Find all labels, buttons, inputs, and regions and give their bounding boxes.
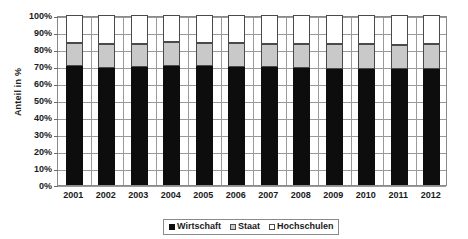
legend-label: Staat — [238, 221, 260, 232]
bar-segment-wirtschaft[interactable] — [358, 69, 375, 185]
y-axis-tickmark — [54, 17, 58, 18]
bar-group[interactable] — [293, 17, 310, 185]
y-axis-tick-labels: 100%90%80%70%60%50%40%30%20%10%0% — [14, 16, 52, 186]
horizontal-gridline — [58, 17, 446, 18]
y-axis-tickmark — [54, 153, 58, 154]
vertical-gridline — [123, 17, 124, 185]
bar-segment-staat[interactable] — [66, 43, 83, 67]
bar-segment-hochschulen[interactable] — [98, 15, 115, 44]
bar-segment-staat[interactable] — [423, 44, 440, 68]
bar-segment-hochschulen[interactable] — [261, 15, 278, 44]
y-axis-tickmark — [54, 186, 58, 187]
bar-group[interactable] — [261, 17, 278, 185]
bar-group[interactable] — [163, 17, 180, 185]
x-axis-tick-label: 2011 — [382, 190, 415, 200]
bar-group[interactable] — [66, 17, 83, 185]
vertical-gridline — [188, 17, 189, 185]
vertical-gridline — [221, 17, 222, 185]
y-axis-tickmark — [54, 68, 58, 69]
legend-swatch-icon — [269, 224, 275, 230]
x-axis-tick-label: 2004 — [155, 190, 188, 200]
bar-segment-hochschulen[interactable] — [228, 15, 245, 43]
bar-segment-staat[interactable] — [326, 44, 343, 69]
y-axis-tickmark — [54, 51, 58, 52]
x-axis-tick-label: 2007 — [252, 190, 285, 200]
y-axis-tick-label: 30% — [14, 131, 52, 140]
horizontal-gridline — [58, 170, 446, 171]
bar-segment-staat[interactable] — [391, 45, 408, 69]
y-axis-tick-label: 90% — [14, 29, 52, 38]
bar-segment-hochschulen[interactable] — [163, 15, 180, 42]
bar-segment-staat[interactable] — [261, 44, 278, 67]
y-axis-tick-label: 100% — [14, 12, 52, 21]
legend-swatch-icon — [230, 224, 236, 230]
bar-segment-hochschulen[interactable] — [196, 15, 213, 43]
legend-item[interactable]: Hochschulen — [269, 221, 334, 232]
bar-group[interactable] — [228, 17, 245, 185]
bar-segment-hochschulen[interactable] — [423, 15, 440, 44]
vertical-gridline — [351, 17, 352, 185]
bar-segment-staat[interactable] — [228, 43, 245, 67]
bar-segment-wirtschaft[interactable] — [131, 67, 148, 185]
bar-group[interactable] — [326, 17, 343, 185]
bar-segment-wirtschaft[interactable] — [66, 66, 83, 185]
vertical-gridline — [156, 17, 157, 185]
horizontal-gridline — [58, 68, 446, 69]
bar-segment-staat[interactable] — [163, 42, 180, 66]
bar-segment-staat[interactable] — [98, 44, 115, 68]
bar-segment-hochschulen[interactable] — [131, 15, 148, 44]
bar-group[interactable] — [423, 17, 440, 185]
legend-swatch-icon — [169, 224, 175, 230]
bar-group[interactable] — [358, 17, 375, 185]
y-axis-tickmark — [54, 136, 58, 137]
y-axis-tick-label: 60% — [14, 80, 52, 89]
bar-segment-wirtschaft[interactable] — [98, 68, 115, 185]
chart-legend: WirtschaftStaatHochschulen — [163, 219, 339, 235]
y-axis-tick-label: 70% — [14, 63, 52, 72]
y-axis-tickmark — [54, 34, 58, 35]
horizontal-gridline — [58, 186, 446, 187]
vertical-gridline — [286, 17, 287, 185]
y-axis-tickmark — [54, 170, 58, 171]
y-axis-tick-label: 0% — [14, 182, 52, 191]
vertical-gridline — [253, 17, 254, 185]
bar-group[interactable] — [98, 17, 115, 185]
x-axis-tick-label: 2006 — [220, 190, 253, 200]
vertical-gridline — [416, 17, 417, 185]
bar-segment-wirtschaft[interactable] — [163, 66, 180, 185]
y-axis-tickmark — [54, 119, 58, 120]
vertical-gridline — [383, 17, 384, 185]
y-axis-tick-label: 50% — [14, 97, 52, 106]
x-axis-tick-label: 2008 — [285, 190, 318, 200]
bar-segment-staat[interactable] — [358, 44, 375, 69]
y-axis-tick-label: 40% — [14, 114, 52, 123]
horizontal-gridline — [58, 51, 446, 52]
bar-segment-hochschulen[interactable] — [358, 15, 375, 44]
bar-segment-staat[interactable] — [293, 44, 310, 68]
bar-segment-hochschulen[interactable] — [293, 15, 310, 44]
bar-segment-wirtschaft[interactable] — [423, 69, 440, 185]
x-axis-tick-label: 2012 — [415, 190, 448, 200]
x-axis-tick-label: 2002 — [90, 190, 123, 200]
bar-segment-wirtschaft[interactable] — [293, 68, 310, 185]
bar-group[interactable] — [391, 17, 408, 185]
bar-segment-hochschulen[interactable] — [391, 15, 408, 45]
x-axis-tick-label: 2003 — [122, 190, 155, 200]
bar-segment-staat[interactable] — [196, 43, 213, 67]
legend-item[interactable]: Staat — [230, 221, 260, 232]
bar-segment-staat[interactable] — [131, 44, 148, 67]
bar-segment-wirtschaft[interactable] — [196, 66, 213, 185]
bar-group[interactable] — [196, 17, 213, 185]
bar-segment-wirtschaft[interactable] — [228, 67, 245, 185]
bar-segment-wirtschaft[interactable] — [391, 69, 408, 185]
bar-segment-hochschulen[interactable] — [66, 15, 83, 43]
bar-segment-wirtschaft[interactable] — [326, 69, 343, 185]
y-axis-tick-label: 20% — [14, 148, 52, 157]
x-axis-tick-label: 2010 — [350, 190, 383, 200]
horizontal-gridline — [58, 34, 446, 35]
bar-segment-wirtschaft[interactable] — [261, 67, 278, 185]
legend-item[interactable]: Wirtschaft — [169, 221, 221, 232]
vertical-gridline — [318, 17, 319, 185]
bar-segment-hochschulen[interactable] — [326, 15, 343, 44]
bar-group[interactable] — [131, 17, 148, 185]
